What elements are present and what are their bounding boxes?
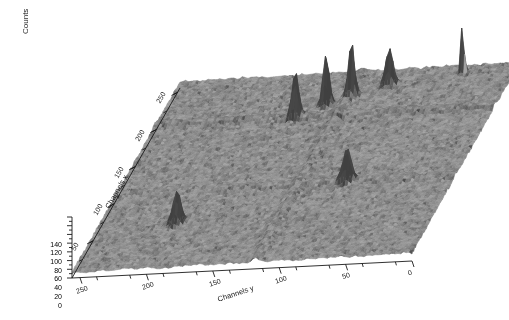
counts-tick-0: 0 [58, 302, 62, 309]
counts-tick-100: 100 [50, 258, 62, 265]
counts-tick-140: 140 [50, 241, 62, 248]
surface-plot-canvas [0, 0, 509, 320]
counts-tick-40: 40 [54, 284, 62, 291]
figure-root: Counts 020406080100120140 50100150200250… [0, 0, 509, 320]
counts-axis-title: Counts [22, 9, 30, 34]
counts-tick-80: 80 [54, 267, 62, 274]
counts-tick-60: 60 [54, 275, 62, 282]
counts-tick-20: 20 [54, 293, 62, 300]
counts-tick-120: 120 [50, 249, 62, 256]
